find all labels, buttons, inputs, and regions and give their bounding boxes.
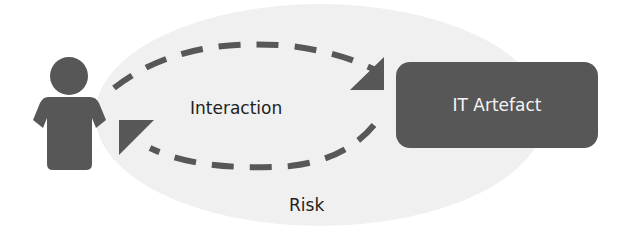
interaction-arrow-top bbox=[114, 44, 384, 90]
person-icon bbox=[33, 57, 106, 170]
it-artefact-box: IT Artefact bbox=[396, 62, 598, 148]
it-artefact-label: IT Artefact bbox=[453, 95, 542, 115]
interaction-label: Interaction bbox=[190, 98, 282, 118]
interaction-arrow-bottom bbox=[119, 120, 374, 167]
risk-label: Risk bbox=[289, 195, 324, 215]
